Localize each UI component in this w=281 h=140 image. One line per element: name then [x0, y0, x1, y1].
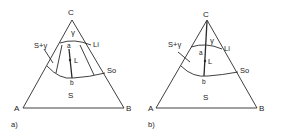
point-L-b — [204, 60, 206, 62]
ternary-diagrams: C A B γ Li So S+γ a L b S a) C A B γ Li … — [0, 0, 281, 140]
label-A-a: A — [14, 104, 20, 113]
solidus-curve-a — [47, 66, 105, 78]
label-b-b: b — [202, 78, 206, 85]
label-C-b: C — [203, 10, 209, 19]
label-Li-b: Li — [224, 44, 230, 53]
tie-line-a2 — [80, 45, 94, 75]
label-a-b: a — [199, 49, 203, 56]
composition-line-a — [69, 49, 72, 78]
liquidus-curve-b — [191, 45, 222, 49]
composition-line-b — [204, 21, 207, 76]
caption-b: b) — [148, 120, 155, 129]
solidus-curve-b — [181, 66, 238, 76]
label-S-b: S — [203, 93, 208, 102]
label-L-a: L — [74, 56, 78, 65]
label-A-b: A — [148, 104, 154, 113]
label-Sgamma-b: S+γ — [168, 40, 181, 49]
label-So-b: So — [240, 66, 249, 75]
label-a-a: a — [67, 42, 71, 49]
label-gamma-a: γ — [71, 28, 75, 37]
label-So-a: So — [107, 66, 116, 75]
label-S-a: S — [68, 91, 73, 100]
label-Li-a: Li — [93, 40, 99, 49]
label-Sgamma-a: S+γ — [34, 41, 47, 50]
label-C-a: C — [68, 8, 74, 17]
point-L-a — [69, 59, 71, 61]
caption-a: a) — [11, 120, 18, 129]
label-gamma-b: γ — [210, 36, 214, 45]
label-L-b: L — [208, 57, 212, 66]
label-B-a: B — [126, 104, 131, 113]
label-b-a: b — [70, 79, 74, 86]
tie-line-a1 — [56, 45, 62, 73]
label-B-b: B — [259, 104, 264, 113]
